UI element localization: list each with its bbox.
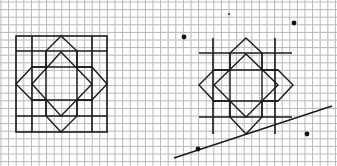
point-dot [228, 13, 230, 15]
point-dot [292, 21, 297, 26]
grid-lines [0, 0, 337, 166]
point-dot [196, 147, 201, 152]
grid-paper-diagram [0, 0, 337, 166]
point-dot [182, 35, 187, 40]
diagram-svg [0, 0, 337, 166]
point-dot [305, 132, 310, 137]
